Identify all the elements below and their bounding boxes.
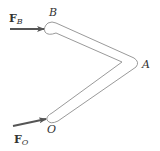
bar-end-B <box>44 22 56 34</box>
force-arrow-FO <box>13 119 46 126</box>
force-label-FO: FO <box>14 133 29 147</box>
bent-bar <box>44 22 137 123</box>
point-label-A: A <box>141 58 150 71</box>
point-label-O: O <box>47 123 56 136</box>
bent-bar-diagram: FB B A O FO <box>0 0 160 151</box>
bar-arm-BA <box>56 23 138 121</box>
bar-end-O <box>47 113 58 123</box>
point-label-B: B <box>48 6 57 19</box>
force-label-FB: FB <box>9 12 23 26</box>
